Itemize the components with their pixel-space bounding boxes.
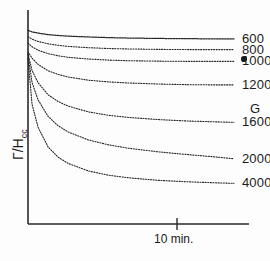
figure-container: Γ/Hcc 10 min. G 600800100012001600200040…: [0, 0, 270, 261]
axes-group: [28, 10, 249, 230]
curve-2000: [28, 55, 234, 159]
series-label-2000: 2000: [242, 151, 270, 166]
series-label-4000: 4000: [242, 175, 270, 190]
chart-plot-area: [0, 0, 270, 261]
curves-group: [28, 30, 234, 183]
curve-600: [28, 30, 234, 39]
y-axis-label-subscript: cc: [19, 129, 29, 138]
curve-4000: [28, 58, 234, 183]
x-axis-tick-label: 10 min.: [154, 232, 193, 246]
series-label-1200: 1200: [242, 77, 270, 92]
y-axis-label: Γ/Hcc: [10, 129, 29, 160]
y-axis-label-main: Γ/H: [10, 138, 26, 160]
curve-1600: [28, 54, 234, 122]
series-label-1600: 1600: [242, 114, 270, 129]
curve-1200: [28, 52, 234, 85]
